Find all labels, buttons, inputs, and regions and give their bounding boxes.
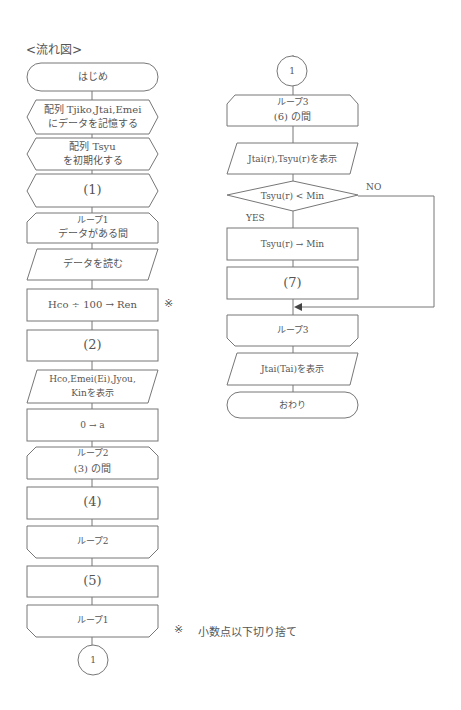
loop2-start-label-2: (3) の間 — [27, 462, 158, 476]
init-array-label-1: 配列 Tsyu — [27, 140, 158, 154]
loop2-end-label: ループ2 — [27, 534, 158, 548]
loop1-start-label-2: データがある間 — [27, 227, 158, 241]
loop1-start-label-1: ループ1 — [27, 213, 158, 227]
blank7-label: (7) — [227, 276, 358, 290]
assign-min-label: Tsyu(r) → Min — [227, 237, 358, 251]
blank1-label: (1) — [27, 183, 158, 197]
decision-yes-label: YES — [246, 211, 265, 225]
start-label: はじめ — [27, 70, 158, 84]
blank5-label: (5) — [27, 574, 158, 588]
calc-ren-mark: ※ — [164, 297, 173, 310]
decision-no-label: NO — [366, 180, 381, 194]
footnote-mark: ※ — [174, 623, 183, 636]
blank2-label: (2) — [27, 338, 158, 352]
decision-label: Tsyu(r) < Min — [227, 189, 358, 203]
display-r-label: Jtai(r),Tsyu(r)を表示 — [227, 152, 358, 166]
connector-top-label: 1 — [277, 64, 307, 78]
loop3-end-label: ループ3 — [227, 323, 358, 337]
end-label: おわり — [227, 398, 358, 412]
read-data-label: データを読む — [27, 257, 158, 271]
loop3-start-label-1: ループ3 — [227, 95, 358, 109]
loop1-end-label: ループ1 — [27, 613, 158, 627]
loop3-start-label-2: (6) の間 — [227, 110, 358, 124]
merge-arrow-icon — [294, 303, 302, 311]
calc-ren-label: Hco ÷ 100 → Ren — [27, 298, 158, 312]
store-arrays-label-2: にデータを記憶する — [27, 117, 158, 131]
store-arrays-label-1: 配列 Tjiko,Jtai,Emei — [27, 103, 158, 117]
init-a-label: 0 → a — [27, 418, 158, 432]
connector-bottom-label: 1 — [78, 653, 108, 667]
init-array-label-2: を初期化する — [27, 154, 158, 168]
blank4-label: (4) — [27, 495, 158, 509]
display-label-1: Hco,Emei(Ei),Jyou, — [27, 372, 158, 386]
display-label-2: Kinを表示 — [27, 386, 158, 400]
diagram-title: <流れ図> — [26, 40, 82, 57]
footnote-text: 小数点以下切り捨て — [198, 623, 297, 639]
loop2-start-label-1: ループ2 — [27, 446, 158, 460]
display-tai-label: Jtai(Tai)を表示 — [227, 362, 358, 376]
